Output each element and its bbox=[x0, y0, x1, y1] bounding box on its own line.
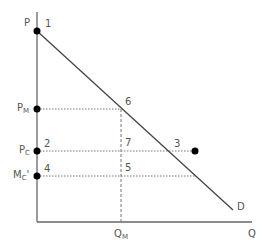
label-point-5: 5 bbox=[125, 163, 131, 173]
label-mc: MC' bbox=[13, 170, 29, 182]
label-point-7: 7 bbox=[125, 138, 131, 148]
label-point-3: 3 bbox=[174, 139, 180, 149]
point-pm bbox=[34, 106, 41, 113]
label-pc: PC bbox=[19, 145, 30, 157]
point-1 bbox=[34, 28, 41, 35]
label-point-1: 1 bbox=[45, 19, 51, 29]
label-pm: PM bbox=[17, 103, 29, 115]
point-2 bbox=[34, 148, 41, 155]
x-axis-label: Q bbox=[248, 229, 256, 239]
demand-label: D bbox=[237, 202, 245, 212]
label-point-6: 6 bbox=[125, 97, 131, 107]
point-4 bbox=[34, 173, 41, 180]
monopoly-demand-chart: P 1 PM PC MC' 2 4 6 7 5 3 D QM Q bbox=[0, 0, 268, 248]
label-qm: QM bbox=[114, 229, 128, 241]
label-point-4: 4 bbox=[44, 164, 50, 174]
demand-curve bbox=[37, 31, 233, 210]
point-3 bbox=[192, 148, 199, 155]
chart-canvas bbox=[0, 0, 268, 248]
label-point-2: 2 bbox=[44, 139, 50, 149]
y-axis-label: P bbox=[24, 18, 30, 28]
